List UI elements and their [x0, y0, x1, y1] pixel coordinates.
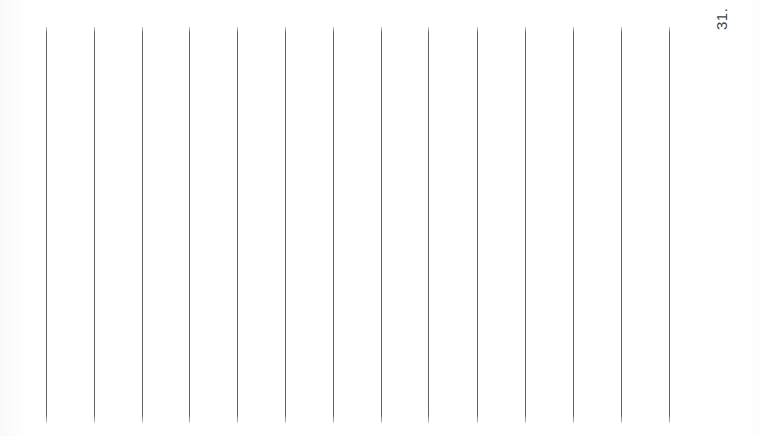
- rule-line: [669, 27, 670, 423]
- rule-line: [142, 27, 143, 423]
- rule-line: [477, 27, 478, 423]
- rule-line: [189, 27, 190, 423]
- scanned-page: 31.: [0, 0, 761, 436]
- rule-line: [573, 27, 574, 423]
- rule-line: [333, 27, 334, 423]
- rule-lines-layer: [0, 0, 761, 436]
- rule-line: [285, 27, 286, 423]
- rule-line: [237, 27, 238, 423]
- rule-line: [621, 27, 622, 423]
- rule-line: [428, 27, 429, 423]
- rule-line: [94, 27, 95, 423]
- page-number: 31.: [714, 8, 729, 30]
- rule-line: [46, 27, 47, 423]
- rule-line: [381, 27, 382, 423]
- rule-line: [525, 27, 526, 423]
